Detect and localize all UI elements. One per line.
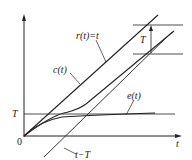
shifted-ramp-line (44, 32, 172, 157)
c-label: c(t) (53, 64, 68, 76)
T-gap-label: T (140, 34, 147, 45)
r-label: r(t)=t (76, 30, 99, 42)
r-leader (96, 40, 106, 62)
axes (22, 14, 182, 138)
ramp-response-diagram: r(t)=t c(t) e(t) t−T T T 0 t (0, 0, 192, 160)
x-axis-label: t (176, 138, 179, 149)
gap-arrow-icon (149, 25, 153, 31)
e-leader (126, 100, 134, 115)
T-level-label: T (12, 108, 19, 119)
e-label: e(t) (127, 90, 142, 102)
shift-label: t−T (75, 149, 92, 160)
origin-label: 0 (17, 136, 22, 147)
e-error-curve (24, 113, 155, 136)
y-axis-arrow-icon (22, 14, 26, 21)
c-leader (70, 73, 80, 84)
